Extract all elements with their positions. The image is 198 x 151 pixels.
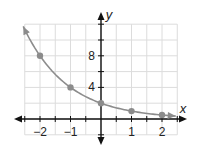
y-tick-label: 4 — [88, 80, 95, 94]
y-tick-label: 8 — [88, 49, 95, 63]
y-axis-label: y — [105, 7, 114, 22]
data-point — [128, 108, 134, 114]
data-point — [98, 100, 104, 106]
x-axis-label: x — [179, 101, 187, 116]
x-tick-label: −2 — [33, 125, 47, 139]
x-tick-label: 2 — [159, 125, 166, 139]
x-tick-label: −1 — [64, 125, 78, 139]
y-axis-down-arrow-icon — [98, 137, 105, 145]
data-point — [37, 53, 43, 59]
x-axis-left-arrow-icon — [14, 116, 22, 123]
curve-right-arrow-icon — [168, 112, 176, 119]
exponential-graph: −2−11248xy — [0, 0, 198, 151]
data-point — [67, 84, 73, 90]
y-axis-up-arrow-icon — [98, 12, 105, 20]
x-axis-right-arrow-icon — [179, 116, 187, 123]
x-tick-label: 1 — [128, 125, 135, 139]
data-point — [159, 112, 165, 118]
